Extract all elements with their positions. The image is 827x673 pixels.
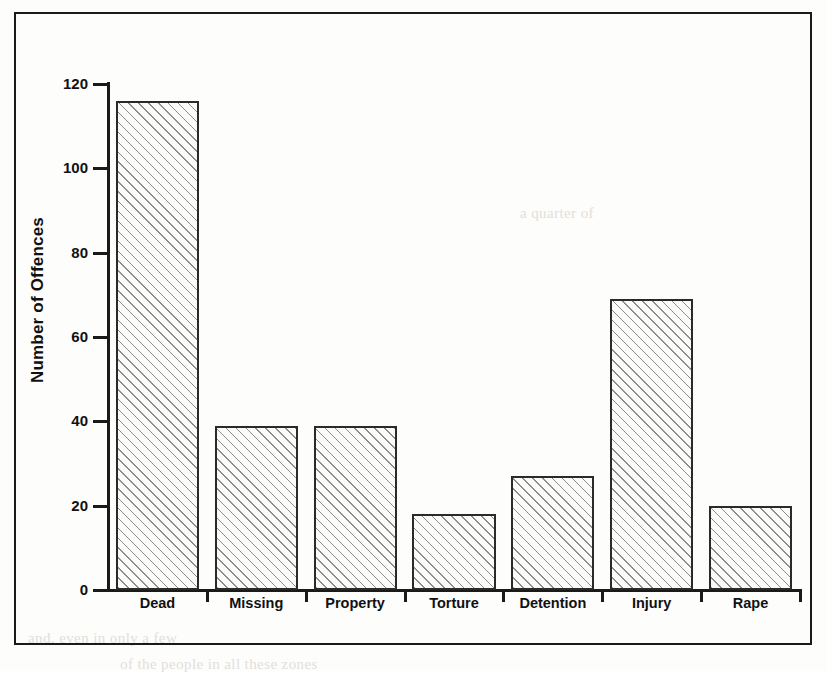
y-axis-tick-label: 40 (42, 413, 88, 428)
x-axis-category-label: Detention (503, 596, 602, 612)
x-axis-category-label: Property (306, 596, 405, 612)
y-axis-tick-label: 80 (42, 245, 88, 260)
y-axis-tick (93, 167, 108, 170)
y-axis-tick-label: 60 (42, 329, 88, 344)
bar-rape (709, 506, 792, 590)
bar-property (314, 426, 397, 590)
y-axis-tick-label-wrap: 60 (36, 329, 88, 345)
y-axis-tick (93, 83, 108, 86)
y-axis-tick (93, 420, 108, 423)
y-axis-tick (93, 252, 108, 255)
y-axis-tick-label: 20 (42, 498, 88, 513)
y-axis-tick-label: 120 (42, 76, 88, 91)
y-axis-tick (93, 505, 108, 508)
y-axis-tick (93, 589, 108, 592)
x-axis-category-label: Missing (207, 596, 306, 612)
bar-missing (215, 426, 298, 590)
bar-injury (610, 299, 693, 590)
y-axis-tick-label-wrap: 100 (36, 160, 88, 176)
y-axis-tick-label-wrap: 40 (36, 413, 88, 429)
y-axis-tick (93, 336, 108, 339)
y-axis-tick-label-wrap: 20 (36, 498, 88, 514)
y-axis-tick-label: 0 (42, 582, 88, 597)
y-axis-tick-label-wrap: 120 (36, 76, 88, 92)
y-axis-tick-label-wrap: 80 (36, 245, 88, 261)
x-axis-category-label: Rape (701, 596, 800, 612)
bar-torture (412, 514, 495, 590)
x-axis-category-label: Torture (405, 596, 504, 612)
x-axis-category-label: Injury (602, 596, 701, 612)
y-axis-tick-label-wrap: 0 (36, 582, 88, 598)
bar-dead (116, 101, 199, 590)
y-axis-tick-label: 100 (42, 160, 88, 175)
y-axis-title: Number of Offences (28, 200, 48, 400)
x-axis-category-label: Dead (108, 596, 207, 612)
bar-detention (511, 476, 594, 590)
